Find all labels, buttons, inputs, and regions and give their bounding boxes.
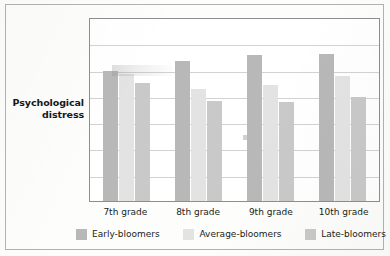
x-axis-label-4: 10th grade — [307, 205, 380, 221]
y-axis-label-line2: distress — [12, 109, 84, 121]
bar — [175, 61, 190, 201]
bar — [351, 97, 366, 201]
bar — [279, 102, 294, 201]
bar — [135, 83, 150, 201]
legend-item-1: Early-bloomers — [76, 229, 160, 240]
legend-label: Average-bloomers — [199, 229, 281, 239]
x-axis-label-2: 8th grade — [162, 205, 235, 221]
y-axis-label-line1: Psychological — [12, 97, 84, 109]
bars-layer — [90, 19, 379, 201]
bar — [319, 54, 334, 201]
legend-swatch-icon — [183, 229, 194, 240]
x-axis-label-3: 9th grade — [235, 205, 308, 221]
legend-label: Late-bloomers — [321, 229, 386, 239]
bar-group — [307, 19, 379, 201]
bar — [119, 74, 134, 201]
y-axis-label: Psychological distress — [12, 97, 84, 121]
chart-page: Psychological distress 7th grade8th grad… — [0, 0, 390, 256]
bar — [207, 101, 222, 201]
bar — [247, 55, 262, 201]
bar-group — [235, 19, 307, 201]
plot-area — [89, 18, 380, 202]
legend-swatch-icon — [305, 229, 316, 240]
chart-legend: Early-bloomersAverage-bloomersLate-bloom… — [76, 226, 386, 242]
bar-group — [162, 19, 234, 201]
legend-label: Early-bloomers — [92, 229, 160, 239]
bar — [335, 76, 350, 201]
bar — [263, 85, 278, 201]
x-axis-labels: 7th grade8th grade9th grade10th grade — [89, 205, 380, 221]
legend-item-3: Late-bloomers — [305, 229, 386, 240]
bar — [191, 89, 206, 201]
x-axis-label-1: 7th grade — [89, 205, 162, 221]
legend-item-2: Average-bloomers — [183, 229, 281, 240]
legend-swatch-icon — [76, 229, 87, 240]
bar — [103, 71, 118, 201]
figure-frame: Psychological distress 7th grade8th grad… — [5, 4, 384, 250]
bar-group — [90, 19, 162, 201]
